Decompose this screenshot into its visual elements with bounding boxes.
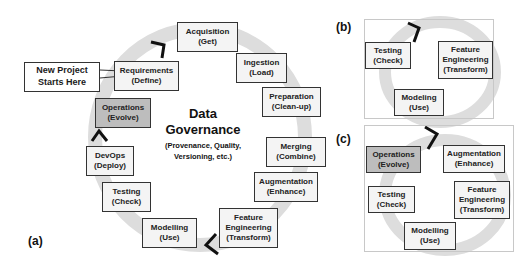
callout-line1: New Project <box>36 65 88 77</box>
step-sub: (Enhance) <box>267 187 306 197</box>
step-augmentation: Augmentation (Enhance) <box>254 172 318 202</box>
step-ingestion: Ingestion (Load) <box>236 53 287 83</box>
step-name: Operations <box>372 150 414 160</box>
step-sub: (Clean-up) <box>272 102 312 112</box>
step-name: Testing <box>378 190 406 200</box>
step-name2: Engineering <box>442 55 488 65</box>
step-name: Ingestion <box>244 58 280 68</box>
step-name: Augmentation <box>447 149 501 159</box>
new-project-callout: New Project Starts Here <box>24 62 100 92</box>
panel-b-label: (b) <box>336 20 351 34</box>
c-step-modelling: Modelling (Use) <box>404 222 456 250</box>
step-sub: (Define) <box>132 76 162 86</box>
step-sub: (Use) <box>159 233 179 243</box>
c-step-testing: Testing (Check) <box>368 186 415 213</box>
step-feature-engineering: Feature Engineering (Transform) <box>219 208 278 248</box>
step-sub: (Enhance) <box>455 159 494 169</box>
step-sub: (Evolve) <box>378 160 409 170</box>
step-sub: (Check) <box>112 197 141 207</box>
step-sub: (Load) <box>249 68 273 78</box>
b-step-testing: Testing (Check) <box>365 42 411 69</box>
data-governance-title: Data Governance (Provenance, Quality, Ve… <box>148 106 258 162</box>
step-name: Merging <box>280 142 311 152</box>
step-sub: (Use) <box>409 103 429 113</box>
panel-a-label: (a) <box>28 234 43 248</box>
step-sub: (Transform) <box>443 65 487 75</box>
step-name: Acquisition <box>186 27 230 37</box>
panel-c-label: (c) <box>336 132 351 146</box>
step-devops: DevOps (Deploy) <box>86 146 134 176</box>
step-sub: (Evolve) <box>107 113 138 123</box>
step-sub: (Transform) <box>460 205 504 215</box>
step-merging: Merging (Combine) <box>266 137 326 167</box>
step-sub: (Combine) <box>276 152 316 162</box>
title-line2: Governance <box>148 122 258 138</box>
step-name: Feature <box>451 45 480 55</box>
step-sub: (Transform) <box>226 233 270 243</box>
step-preparation: Preparation (Clean-up) <box>262 87 321 117</box>
step-name: Modelling <box>411 226 448 236</box>
title-line1: Data <box>148 106 258 122</box>
subtitle-line2: Versioning, etc.) <box>148 151 258 162</box>
callout-line2: Starts Here <box>38 77 86 89</box>
step-testing: Testing (Check) <box>102 182 151 212</box>
step-name: Testing <box>374 46 402 56</box>
step-name: Operations <box>102 103 144 113</box>
subtitle-line1: (Provenance, Quality, <box>148 140 258 151</box>
step-modelling: Modelling (Use) <box>142 218 197 248</box>
step-acquisition: Acquisition (Get) <box>177 22 238 52</box>
step-name: Augmentation <box>259 177 313 187</box>
step-name: DevOps <box>95 151 125 161</box>
step-name: Modelling <box>151 223 188 233</box>
step-requirements: Requirements (Define) <box>114 61 179 91</box>
step-name: Modeling <box>401 93 436 103</box>
step-sub: (Check) <box>373 56 402 66</box>
step-sub: (Use) <box>420 236 440 246</box>
step-name: Preparation <box>269 92 313 102</box>
step-name: Feature <box>234 213 263 223</box>
step-operations: Operations (Evolve) <box>95 98 151 128</box>
step-sub: (Get) <box>198 37 217 47</box>
step-name: Requirements <box>120 66 173 76</box>
step-name2: Engineering <box>459 195 505 205</box>
step-sub: (Check) <box>377 200 406 210</box>
c-step-operations: Operations (Evolve) <box>366 146 421 173</box>
step-name2: Engineering <box>225 223 271 233</box>
c-step-augmentation: Augmentation (Enhance) <box>443 145 505 173</box>
step-name: Feature <box>468 185 497 195</box>
b-step-modeling: Modeling (Use) <box>394 89 444 116</box>
step-sub: (Deploy) <box>94 161 126 171</box>
step-name: Testing <box>113 187 141 197</box>
c-step-feature-engineering: Feature Engineering (Transform) <box>454 181 510 219</box>
b-step-feature-engineering: Feature Engineering (Transform) <box>438 41 493 79</box>
